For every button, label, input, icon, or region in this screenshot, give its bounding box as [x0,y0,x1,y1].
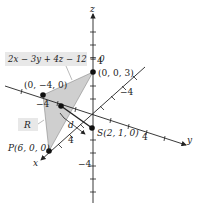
y-intercept-label: (0, −4, 0) [24,80,67,90]
x-tick-pos: 4 [68,135,74,145]
z-tick-neg: −4 [78,159,92,169]
point-y-intercept [40,92,46,98]
equation-label: 2x − 3y + 4z − 12 = 0 [7,54,105,64]
z-tick-pos: 4 [97,56,103,66]
s-label: S(2, 1, 0) [97,128,139,138]
plane-distance-diagram: 2x − 3y + 4z − 12 = 0 R z y x 4 −4 4 −4 … [0,0,197,213]
x-tick-neg: −4 [120,87,134,97]
z-axis-label: z [89,4,95,14]
y-axis-label: y [186,135,193,145]
p-label: P(6, 0, 0) [7,143,50,153]
region-pointer [38,120,44,124]
y-tick-pos: 4 [142,132,148,142]
distance-label: d [68,120,74,130]
z-intercept-label: (0, 0, 3) [98,68,134,78]
y-axis [5,86,186,145]
x-axis-label: x [33,158,38,168]
region-label: R [23,120,31,130]
point-r [58,103,64,109]
point-z-intercept [90,69,96,75]
y-tick-neg: −4 [36,99,50,109]
point-s [89,125,95,131]
equation-pointer [66,66,72,80]
